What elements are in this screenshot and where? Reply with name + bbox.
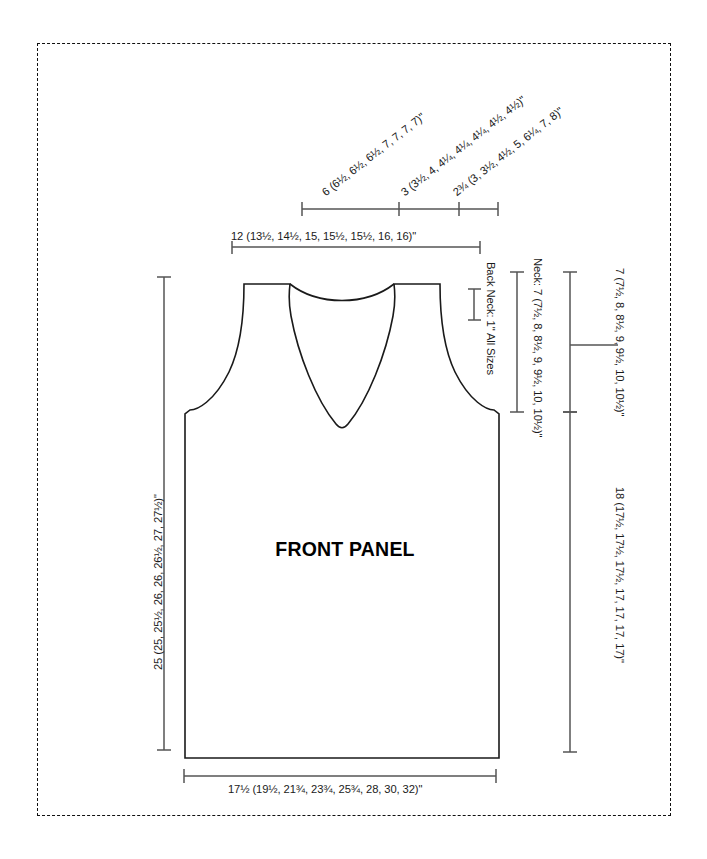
body-length-label: 18 (17½, 17½, 17½, 17, 17, 17, 17)" bbox=[614, 487, 626, 663]
page-title: FRONT PANEL bbox=[203, 538, 487, 561]
schematic-drawing bbox=[0, 0, 707, 859]
armhole-depth-label: 7 (7½, 8, 8½, 9, 9½, 10, 10½)" bbox=[614, 268, 626, 416]
back-neck-dimension-line bbox=[468, 289, 481, 320]
neck-dimension-line bbox=[510, 272, 524, 412]
neckline-trim-curve bbox=[290, 284, 394, 301]
shoulder-neck-dimension-line bbox=[302, 202, 498, 216]
top-width-dimension-line bbox=[232, 241, 480, 254]
body-length-dimension-line bbox=[563, 412, 577, 752]
front-panel-outline bbox=[185, 284, 499, 758]
armhole-depth-dimension-line bbox=[563, 272, 577, 412]
top-width-label: 12 (13½, 14½, 15, 15½, 15½, 16, 16)" bbox=[231, 230, 416, 242]
bottom-width-label: 17½ (19½, 21¾, 23¾, 25¾, 28, 30, 32)" bbox=[228, 783, 422, 795]
back-neck-label: Back Neck: 1" All Sizes bbox=[485, 262, 497, 375]
schematic-page: FRONT PANEL 12 (13½, 14½, 15, 15½, 15½, … bbox=[0, 0, 707, 859]
bottom-width-dimension-line bbox=[184, 769, 496, 783]
total-length-label: 25 (25, 25½, 26, 26, 26½, 27, 27½)" bbox=[152, 494, 164, 670]
neck-width-label: Neck: 7 (7½, 8, 8½, 9, 9½, 10, 10½)" bbox=[532, 258, 544, 437]
